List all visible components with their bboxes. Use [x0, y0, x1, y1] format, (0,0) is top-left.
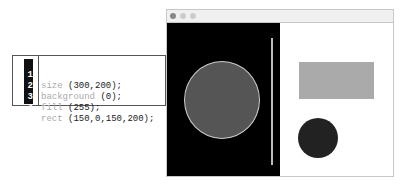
gray-rectangle-shape	[299, 62, 374, 99]
code-args: (150,0,150,200);	[63, 114, 155, 124]
code-keyword: size	[41, 81, 63, 91]
minimize-button-icon[interactable]	[180, 13, 186, 19]
code-line: 1 size (300,200);	[13, 59, 35, 70]
code-keyword: background	[41, 92, 95, 102]
code-line: 3 fill (255);	[13, 81, 35, 92]
window-titlebar	[167, 10, 393, 23]
line-number: 4	[25, 103, 33, 114]
maximize-button-icon[interactable]	[190, 13, 196, 19]
vertical-line-shape	[271, 38, 273, 165]
close-button-icon[interactable]	[170, 13, 176, 19]
gray-circle-shape	[184, 61, 260, 139]
code-args: (255);	[63, 103, 101, 113]
sketch-canvas	[167, 23, 393, 176]
code-line: 2 background (0);	[13, 70, 35, 81]
code-listing: 1 size (300,200); 2 background (0); 3 fi…	[12, 55, 166, 106]
code-args: (0);	[95, 92, 122, 102]
dark-circle-shape	[298, 118, 338, 158]
code-keyword: rect	[41, 114, 63, 124]
code-line: 4 rect (150,0,150,200);	[13, 92, 35, 103]
code-keyword: fill	[41, 103, 63, 113]
sketch-window	[166, 9, 394, 177]
black-background-region	[167, 23, 280, 176]
code-args: (300,200);	[63, 81, 122, 91]
gutter-separator	[38, 56, 39, 105]
